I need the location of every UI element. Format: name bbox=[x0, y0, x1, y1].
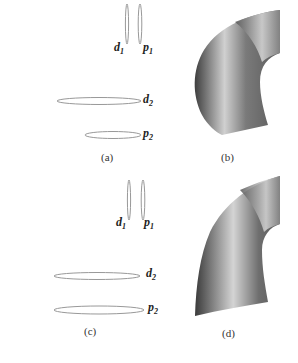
label-p1: p1 bbox=[143, 40, 153, 56]
label-p2: p2 bbox=[148, 300, 158, 316]
panel-c: d1 p1 d2 p2 (c) bbox=[0, 180, 180, 363]
swept-surface-d bbox=[180, 170, 298, 363]
panel-d: (d) bbox=[180, 170, 298, 363]
panel-a: d1 p1 d2 p2 (a) bbox=[0, 0, 180, 180]
swept-surface-b bbox=[180, 0, 298, 180]
caption-c: (c) bbox=[84, 325, 96, 337]
caption-d: (d) bbox=[222, 327, 235, 339]
caption-a: (a) bbox=[101, 151, 113, 163]
label-d2: d2 bbox=[143, 92, 153, 108]
caption-b: (b) bbox=[221, 151, 234, 163]
panel-b: (b) bbox=[180, 0, 298, 180]
cross-section-curves-a bbox=[0, 0, 180, 180]
label-p2: p2 bbox=[143, 126, 153, 142]
label-p1: p1 bbox=[144, 215, 154, 231]
label-d1: d1 bbox=[116, 215, 126, 231]
label-d1: d1 bbox=[114, 40, 124, 56]
label-d2: d2 bbox=[146, 266, 156, 282]
